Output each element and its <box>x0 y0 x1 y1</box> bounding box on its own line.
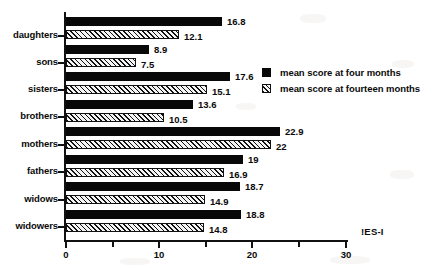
y-axis-tick <box>58 171 65 173</box>
y-axis-tick <box>58 116 65 118</box>
x-axis-tick-15 <box>205 242 207 247</box>
bar-value-four-months-widowers: 18.8 <box>246 210 265 219</box>
bar-fourteen-months-widowers <box>66 223 204 232</box>
scan-artifact <box>120 258 150 265</box>
x-axis-tick-0 <box>65 242 67 248</box>
bar-value-fourteen-months-sisters: 15.1 <box>212 87 231 96</box>
legend-item-four-months: mean score at four months <box>262 66 432 79</box>
bar-four-months-brothers <box>66 100 193 109</box>
category-label-sons: sons <box>36 57 58 67</box>
bar-fourteen-months-mothers <box>66 140 271 149</box>
bar-fourteen-months-brothers <box>66 113 164 122</box>
legend-label-fourteen-months: mean score at fourteen months <box>280 83 420 94</box>
category-label-sisters: sisters <box>28 84 58 94</box>
y-axis-tick <box>58 62 65 64</box>
y-axis-tick <box>58 89 65 91</box>
category-label-mothers: mothers <box>21 139 58 149</box>
bar-value-fourteen-months-brothers: 10.5 <box>169 115 188 124</box>
bar-value-fourteen-months-widows: 14.9 <box>210 197 229 206</box>
bar-value-four-months-daughters: 16.8 <box>227 17 246 26</box>
y-axis-tick <box>58 144 65 146</box>
x-axis-tick-25 <box>298 242 300 247</box>
bar-four-months-mothers <box>66 127 280 136</box>
y-axis-tick <box>58 226 65 228</box>
bar-value-four-months-sisters: 17.6 <box>235 72 254 81</box>
category-axis-labels: daughters sons sisters brothers mothers … <box>0 0 58 240</box>
bar-fourteen-months-fathers <box>66 168 224 177</box>
bar-value-fourteen-months-sons: 7.5 <box>141 60 154 69</box>
category-label-fathers: fathers <box>27 166 58 176</box>
bar-four-months-daughters <box>66 17 222 26</box>
x-axis-tick-label-10: 10 <box>154 249 165 260</box>
solid-square-icon <box>262 68 271 77</box>
bar-value-four-months-fathers: 19 <box>248 155 259 164</box>
x-axis-title: !ES-I <box>361 226 384 237</box>
bar-fourteen-months-widows <box>66 195 205 204</box>
bar-fourteen-months-sisters <box>66 85 207 94</box>
x-axis-tick-20 <box>251 242 253 248</box>
bar-fourteen-months-daughters <box>66 30 179 39</box>
bar-four-months-widows <box>66 182 240 191</box>
legend-label-four-months: mean score at four months <box>280 67 401 78</box>
bar-value-four-months-sons: 8.9 <box>154 45 167 54</box>
bar-four-months-sisters <box>66 72 230 81</box>
bar-value-fourteen-months-widowers: 14.8 <box>209 225 228 234</box>
bar-value-four-months-mothers: 22.9 <box>285 127 304 136</box>
legend-item-fourteen-months: mean score at fourteen months <box>262 82 432 95</box>
bar-value-fourteen-months-fathers: 16.9 <box>229 170 248 179</box>
x-axis-tick-label-0: 0 <box>63 249 68 260</box>
category-label-daughters: daughters <box>13 30 58 40</box>
scan-artifact <box>390 170 414 179</box>
bar-four-months-widowers <box>66 210 241 219</box>
category-label-brothers: brothers <box>20 111 58 121</box>
bar-value-four-months-widows: 18.7 <box>245 182 264 191</box>
bar-four-months-fathers <box>66 155 243 164</box>
bar-four-months-sons <box>66 45 149 54</box>
x-axis-tick-30 <box>345 242 347 248</box>
bar-value-fourteen-months-mothers: 22 <box>276 142 287 151</box>
bar-chart: daughters sons sisters brothers mothers … <box>0 0 435 268</box>
x-axis-tick-10 <box>158 242 160 248</box>
legend: mean score at four months mean score at … <box>262 66 432 98</box>
plot-area: 16.8 12.1 8.9 7.5 17.6 15.1 13.6 10.5 22… <box>66 12 366 240</box>
category-label-widows: widows <box>24 194 58 204</box>
y-axis-tick <box>58 199 65 201</box>
bar-value-four-months-brothers: 13.6 <box>198 100 217 109</box>
y-axis-tick <box>58 35 65 37</box>
bar-fourteen-months-sons <box>66 58 136 67</box>
bar-value-fourteen-months-daughters: 12.1 <box>184 32 203 41</box>
hatched-square-icon <box>262 84 271 93</box>
x-axis-tick-label-20: 20 <box>247 249 258 260</box>
category-label-widowers: widowers <box>16 221 59 231</box>
x-axis-tick-label-30: 30 <box>341 249 352 260</box>
x-axis-tick-5 <box>112 242 114 247</box>
